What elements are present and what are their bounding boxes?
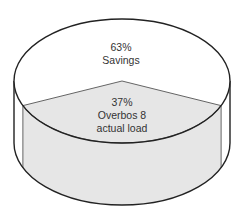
slice-label-savings-percent: 63% (110, 41, 131, 53)
slice-label-load-name: Overbos 8 (98, 109, 147, 121)
slice-label-load-name-2: actual load (97, 122, 148, 134)
slice-label-load-percent: 37% (111, 96, 132, 108)
slice-label-savings-name: Savings (102, 54, 139, 66)
cylinder-pie-chart: 63% Savings 37% Overbos 8 actual load (0, 0, 247, 209)
